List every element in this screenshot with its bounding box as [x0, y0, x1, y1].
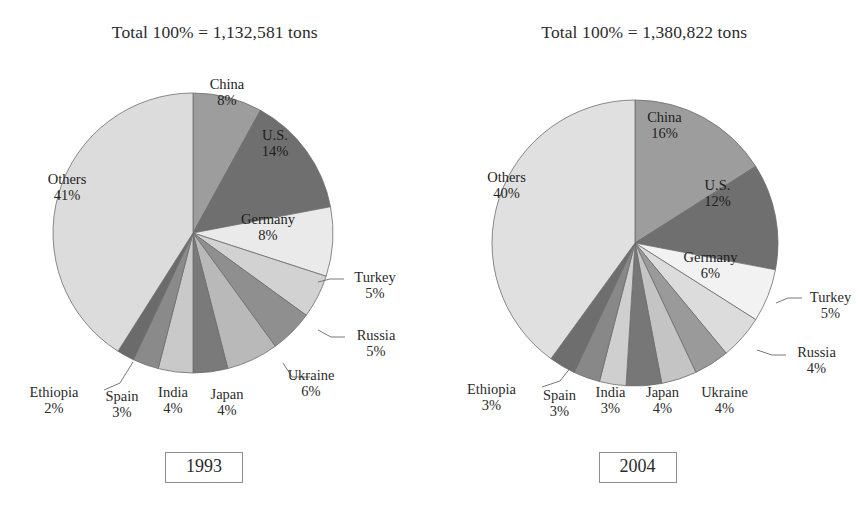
- slice-label-us-1993: U.S. 14%: [250, 128, 300, 159]
- slice-label-ethiopia-1993: Ethiopia 2%: [18, 385, 90, 416]
- pie-chart-figure: Total 100% = 1,132,581 tons China 8% U.S…: [0, 0, 859, 519]
- chart-panel-2004: Total 100% = 1,380,822 tons China 16% U.…: [430, 0, 859, 519]
- slice-label-china-2004: China 16%: [634, 110, 696, 141]
- slice-label-china-1993: China 8%: [197, 77, 257, 108]
- slice-label-india-2004: India 3%: [586, 385, 636, 416]
- slice-label-ukraine-2004: Ukraine 4%: [692, 385, 758, 416]
- slice-label-germany-1993: Germany 8%: [229, 212, 307, 243]
- slice-label-india-1993: India 4%: [148, 385, 198, 416]
- slice-label-turkey-1993: Turkey 5%: [344, 270, 406, 301]
- slice-label-others-1993: Others 41%: [36, 172, 98, 203]
- pie-2004-svg: [430, 0, 859, 519]
- slice-label-japan-2004: Japan 4%: [636, 385, 690, 416]
- slice-label-others-2004: Others 40%: [476, 170, 538, 201]
- slice-label-us-2004: U.S. 12%: [692, 178, 744, 209]
- slice-label-spain-1993: Spain 3%: [96, 389, 148, 420]
- slice-label-germany-2004: Germany 6%: [671, 250, 751, 281]
- year-box-2004: 2004: [599, 452, 677, 483]
- slice-label-ethiopia-2004: Ethiopia 3%: [456, 382, 528, 413]
- chart-panel-1993: Total 100% = 1,132,581 tons China 8% U.S…: [0, 0, 430, 519]
- slice-label-russia-1993: Russia 5%: [344, 328, 408, 359]
- slice-label-russia-2004: Russia 4%: [785, 345, 849, 376]
- slice-label-japan-1993: Japan 4%: [200, 387, 254, 418]
- slice-label-turkey-2004: Turkey 5%: [801, 290, 859, 321]
- slice-label-ukraine-1993: Ukraine 6%: [278, 368, 344, 399]
- year-box-1993: 1993: [165, 452, 243, 483]
- pie-2004-slices: [492, 100, 778, 386]
- slice-label-spain-2004: Spain 3%: [534, 388, 586, 419]
